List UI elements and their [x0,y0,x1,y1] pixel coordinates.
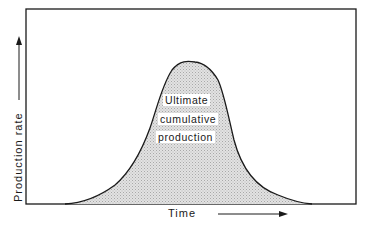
area-label-cumulative: cumulative [158,113,218,125]
y-axis-label: Production rate [12,112,24,202]
x-axis-arrowhead-icon [279,211,288,217]
area-label-production: production [156,131,215,143]
area-label-ultimate: Ultimate [163,94,210,106]
x-axis-label: Time [168,207,196,219]
y-axis-arrowhead-icon [16,36,22,45]
